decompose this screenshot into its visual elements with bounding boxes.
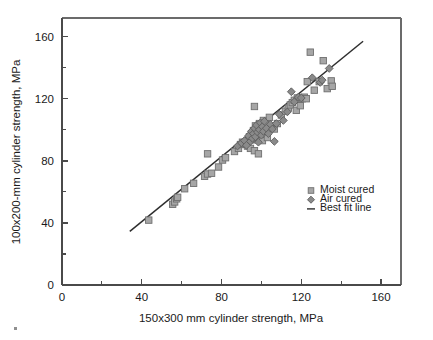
x-tick-label: 40 [135,291,148,303]
data-point-moist-cured [297,103,303,109]
data-point-moist-cured [251,103,257,109]
legend-marker-moist-cured [308,188,314,194]
y-tick-label: 160 [35,31,54,43]
y-tick-label: 0 [48,279,54,291]
chart-legend: Moist curedAir curedBest fit line [307,183,374,213]
data-point-air-cured [270,138,278,146]
data-point-moist-cured [320,57,326,63]
data-point-moist-cured [204,151,210,157]
data-point-moist-cured [329,83,335,89]
data-point-moist-cured [181,186,187,192]
legend-marker-air-cured [307,196,314,203]
y-tick-label: 40 [41,217,54,229]
legend-label-2: Best fit line [320,201,372,213]
data-point-moist-cured [208,170,214,176]
x-tick-label: 80 [215,291,228,303]
data-point-moist-cured [174,194,180,200]
data-point-moist-cured [222,155,228,161]
data-point-moist-cured [307,49,313,55]
y-tick-label: 80 [41,155,54,167]
y-axis-title: 100x200-mm cylinder strength, MPa [10,59,22,244]
data-point-moist-cured [215,164,221,170]
data-points [146,49,336,223]
data-point-moist-cured [190,180,196,186]
axis-tick-labels: 0408012016004080120160 [35,31,391,303]
y-tick-label: 120 [35,93,54,105]
chart-figure: 0408012016004080120160 150x300 mm cylind… [0,0,433,340]
x-tick-label: 0 [59,291,65,303]
corner-artifact [14,327,17,330]
x-axis-title: 150x300 mm cylinder strength, MPa [139,312,324,324]
x-tick-label: 160 [371,291,390,303]
scatter-chart: 0408012016004080120160 150x300 mm cylind… [0,0,433,340]
data-point-moist-cured [146,217,152,223]
x-tick-label: 120 [292,291,311,303]
data-point-moist-cured [311,87,317,93]
data-point-moist-cured [255,151,261,157]
